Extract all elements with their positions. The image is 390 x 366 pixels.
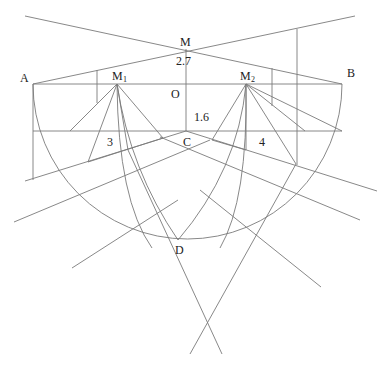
ray-M1-4 bbox=[117, 84, 163, 138]
label-M: M bbox=[180, 35, 191, 49]
ray-M1-1 bbox=[70, 84, 117, 131]
label-M1-sub: 1 bbox=[123, 75, 127, 84]
ray-M2-3 bbox=[246, 84, 305, 131]
label-B: B bbox=[347, 66, 355, 80]
lower-ray-right-short bbox=[200, 190, 321, 287]
lower-ray-right bbox=[190, 164, 296, 354]
label-region-4: 4 bbox=[259, 135, 265, 149]
edge-3-region bbox=[88, 138, 163, 162]
geometric-construction-diagram: M 2.7 A B M 1 M 2 O 1.6 3 C 4 D bbox=[0, 0, 390, 366]
label-A: A bbox=[20, 71, 29, 85]
arc-M2-a bbox=[178, 84, 246, 240]
line-A-to-upper-right bbox=[33, 16, 355, 84]
label-M1: M bbox=[112, 69, 123, 83]
edge-4-region bbox=[212, 140, 246, 150]
label-region-3: 3 bbox=[107, 135, 113, 149]
label-M2: M bbox=[240, 69, 251, 83]
lower-ray-left-short bbox=[72, 200, 178, 268]
label-dim-1-6: 1.6 bbox=[194, 110, 209, 124]
ray-M1-2 bbox=[88, 84, 117, 162]
label-C: C bbox=[183, 135, 191, 149]
line-upper-left-to-B bbox=[25, 16, 342, 84]
label-M2-sub: 2 bbox=[251, 75, 255, 84]
line-C-left-lower bbox=[14, 140, 210, 222]
label-D: D bbox=[175, 243, 184, 257]
line-C-right-lower bbox=[160, 137, 360, 220]
arc-M1-a bbox=[117, 84, 178, 240]
ray-M2-1 bbox=[212, 84, 246, 140]
main-arc bbox=[33, 84, 342, 239]
label-O: O bbox=[171, 87, 180, 101]
label-dim-2-7: 2.7 bbox=[176, 54, 191, 68]
